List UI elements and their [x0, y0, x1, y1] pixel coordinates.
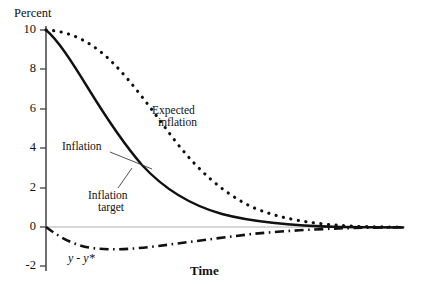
- inflation-leader-line: [110, 152, 152, 169]
- output-gap-curve: [46, 227, 403, 249]
- expected-inflation-label-line2: inflation: [158, 116, 197, 129]
- inflation-dynamics-chart: Percent 10 8 6 4 2 0 -2 Time Inflation E…: [0, 0, 424, 290]
- inflation-curve-label: Inflation: [62, 140, 102, 153]
- y-tick-label-8: 8: [4, 61, 36, 75]
- inflation-target-label-line1: Inflation: [88, 189, 128, 202]
- output-gap-label: y - y*: [68, 252, 95, 265]
- y-tick-label-6: 6: [4, 101, 36, 115]
- y-axis-title: Percent: [14, 6, 51, 20]
- inflation-target-leader-line: [118, 168, 132, 188]
- y-tick-label-2: 2: [4, 180, 36, 194]
- y-tick-label-4: 4: [4, 140, 36, 154]
- y-tick-label-0: 0: [4, 219, 36, 233]
- inflation-target-label-line2: target: [98, 201, 124, 214]
- y-tick-label-neg2: -2: [2, 258, 36, 272]
- x-axis-title: Time: [190, 264, 219, 279]
- expected-inflation-label-line1: Expected: [152, 104, 195, 117]
- y-axis-ticks: [40, 30, 46, 266]
- y-tick-label-10: 10: [4, 22, 36, 36]
